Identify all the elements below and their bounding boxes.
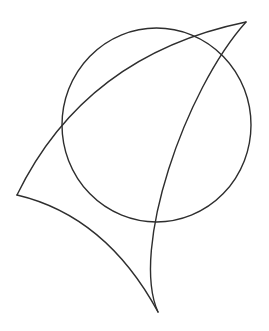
geometry-diagram <box>0 0 269 331</box>
background <box>0 0 269 331</box>
